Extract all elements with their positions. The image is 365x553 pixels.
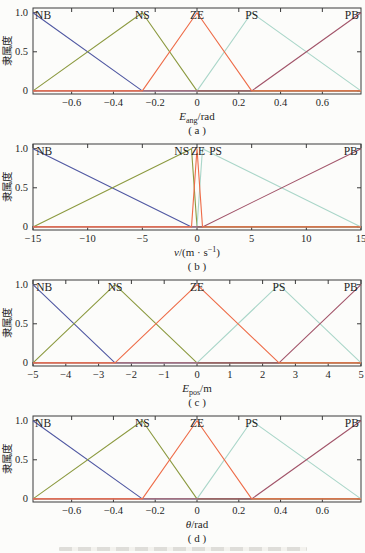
series-label-PS: PS — [209, 145, 222, 157]
x-tick-label: 1 — [227, 369, 232, 380]
series-line-PS — [33, 421, 361, 499]
series-line-PB — [33, 13, 361, 91]
x-axis-label: v/(m · s−1) — [174, 245, 220, 259]
series-label-PB: PB — [345, 417, 359, 429]
chart-a-canvas: −0.6−0.4−0.200.20.40.600.51.0NBNSZEPSPB隶… — [0, 0, 365, 136]
series-label-PS: PS — [245, 9, 258, 21]
y-axis-label: 隶属度 — [1, 443, 13, 474]
x-tick-label: −0.2 — [146, 505, 165, 516]
x-tick-label: 0.4 — [274, 97, 288, 108]
y-axis-label: 隶属度 — [1, 171, 13, 202]
x-axis-label: θ/rad — [186, 518, 209, 530]
y-tick-label: 1.0 — [15, 279, 28, 290]
x-tick-label: 10 — [301, 233, 312, 244]
series-line-PS — [33, 149, 361, 227]
chart-d-canvas: −0.6−0.4−0.200.20.40.600.51.0NBNSZEPSPB隶… — [0, 408, 365, 544]
series-line-PB — [33, 149, 361, 227]
series-label-NB: NB — [35, 9, 51, 21]
y-tick-label: 0 — [23, 85, 28, 96]
subplot-label: ( c ) — [188, 396, 206, 408]
subplot-b: −15−10−505101500.51.0NBNSZEPSPB隶属度v/(m ·… — [0, 136, 365, 272]
subplot-label: ( d ) — [188, 532, 207, 544]
series-line-NS — [33, 421, 361, 499]
y-axis-label: 隶属度 — [1, 307, 13, 338]
subplot-label: ( b ) — [188, 260, 207, 272]
series-label-NS: NS — [174, 145, 189, 157]
series-line-ZE — [33, 13, 361, 91]
x-tick-label: 0.4 — [274, 505, 288, 516]
subplot-label: ( a ) — [188, 124, 206, 136]
series-label-NB: NB — [36, 145, 52, 157]
series-label-NB: NB — [35, 417, 51, 429]
y-tick-label: 1.0 — [15, 415, 28, 426]
series-line-NB — [33, 285, 361, 363]
x-tick-label: 0 — [194, 505, 199, 516]
cropped-caption-strip — [59, 547, 307, 551]
x-tick-label: 0.6 — [316, 97, 329, 108]
y-tick-label: 0.5 — [15, 182, 28, 193]
x-tick-label: −0.6 — [62, 505, 81, 516]
series-line-NB — [33, 13, 361, 91]
x-tick-label: −15 — [25, 233, 41, 244]
x-tick-label: −0.2 — [146, 97, 165, 108]
x-tick-label: 15 — [356, 233, 365, 244]
x-tick-label: 0 — [194, 97, 199, 108]
series-label-ZE: ZE — [190, 281, 204, 293]
chart-b-canvas: −15−10−505101500.51.0NBNSZEPSPB隶属度v/(m ·… — [0, 136, 365, 272]
x-tick-label: 4 — [326, 369, 332, 380]
series-label-NB: NB — [36, 281, 52, 293]
x-tick-label: 0.6 — [316, 505, 329, 516]
x-tick-label: −1 — [159, 369, 170, 380]
fuzzy-membership-figure: −0.6−0.4−0.200.20.40.600.51.0NBNSZEPSPB隶… — [0, 0, 365, 553]
series-line-PB — [33, 421, 361, 499]
y-tick-label: 0 — [23, 493, 28, 504]
x-tick-label: 2 — [260, 369, 265, 380]
series-line-PS — [33, 13, 361, 91]
x-tick-label: −5 — [27, 369, 38, 380]
y-tick-label: 0.5 — [15, 318, 28, 329]
series-label-ZE: ZE — [190, 9, 204, 21]
series-line-ZE — [33, 421, 361, 499]
subplot-a: −0.6−0.4−0.200.20.40.600.51.0NBNSZEPSPB隶… — [0, 0, 365, 136]
series-label-PS: PS — [245, 417, 258, 429]
y-tick-label: 0.5 — [15, 454, 28, 465]
series-label-ZE: ZE — [190, 417, 204, 429]
series-label-ZE: ZE — [191, 145, 205, 157]
series-label-NS: NS — [135, 417, 150, 429]
series-line-PB — [33, 285, 361, 363]
series-label-PB: PB — [345, 9, 359, 21]
x-tick-label: 5 — [358, 369, 363, 380]
subplot-c: −5−4−3−2−101234500.51.0NBNSZEPSPB隶属度Epos… — [0, 272, 365, 408]
x-tick-label: −10 — [79, 233, 95, 244]
series-label-NS: NS — [135, 9, 150, 21]
x-tick-label: 0 — [194, 369, 199, 380]
series-label-PS: PS — [273, 281, 286, 293]
x-axis-label: Eang/rad — [178, 110, 215, 125]
series-label-PB: PB — [344, 145, 358, 157]
series-line-ZE — [33, 285, 361, 363]
series-line-NS — [33, 285, 361, 363]
y-axis-label: 隶属度 — [1, 35, 13, 66]
series-line-NB — [33, 421, 361, 499]
x-axis-label: Epos/m — [181, 382, 212, 397]
x-tick-label: −5 — [137, 233, 148, 244]
x-tick-label: 3 — [293, 369, 298, 380]
x-tick-label: 0.2 — [232, 97, 245, 108]
y-tick-label: 0 — [23, 221, 28, 232]
x-tick-label: 5 — [249, 233, 254, 244]
x-tick-label: −3 — [93, 369, 104, 380]
x-tick-label: −0.4 — [104, 97, 124, 108]
x-tick-label: −0.6 — [62, 97, 81, 108]
series-line-NS — [33, 13, 361, 91]
y-tick-label: 1.0 — [15, 7, 28, 18]
series-line-PS — [33, 285, 361, 363]
x-tick-label: −0.4 — [104, 505, 124, 516]
series-label-NS: NS — [108, 281, 123, 293]
series-line-ZE — [33, 149, 361, 227]
subplot-d: −0.6−0.4−0.200.20.40.600.51.0NBNSZEPSPB隶… — [0, 408, 365, 544]
series-label-PB: PB — [344, 281, 358, 293]
y-tick-label: 0 — [23, 357, 28, 368]
series-line-NS — [33, 149, 361, 227]
x-tick-label: −4 — [60, 369, 72, 380]
series-line-NB — [33, 149, 361, 227]
